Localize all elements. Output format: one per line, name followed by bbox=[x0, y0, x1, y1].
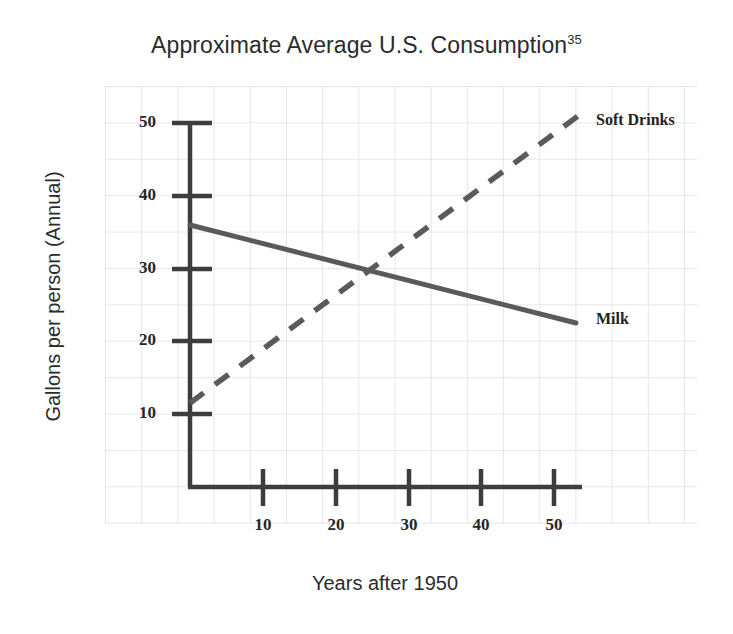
y-tick-label-40: 40 bbox=[116, 185, 156, 205]
series-label-soft-drinks: Soft Drinks bbox=[596, 111, 675, 129]
x-tick-label-40: 40 bbox=[461, 515, 501, 535]
series-label-milk: Milk bbox=[596, 310, 629, 328]
series-line-milk bbox=[190, 225, 576, 323]
x-tick-label-30: 30 bbox=[389, 515, 429, 535]
x-tick-label-10: 10 bbox=[243, 515, 283, 535]
x-tick-label-20: 20 bbox=[316, 515, 356, 535]
y-tick-label-10: 10 bbox=[116, 403, 156, 423]
x-tick-label-50: 50 bbox=[534, 515, 574, 535]
chart-page: Approximate Average U.S. Consumption35 G… bbox=[0, 0, 733, 634]
y-tick-label-30: 30 bbox=[116, 258, 156, 278]
y-tick-label-20: 20 bbox=[116, 330, 156, 350]
y-tick-label-50: 50 bbox=[116, 112, 156, 132]
series-line-soft-drinks bbox=[190, 116, 578, 403]
